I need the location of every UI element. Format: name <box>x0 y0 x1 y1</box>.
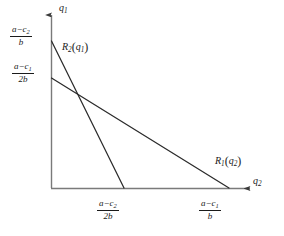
curve-label-r2-close-paren: ) <box>84 40 88 54</box>
curve-label-r2: R2(q1) <box>62 41 88 54</box>
fraction: a−c2 b <box>10 24 32 49</box>
numerator-a: a <box>14 61 19 71</box>
fraction-numerator: a−c1 <box>199 198 221 211</box>
y-tick-label-a-minus-c2-over-b: a−c2 b <box>10 24 32 49</box>
fraction: a−c2 2b <box>97 198 119 223</box>
fraction: a−c1 b <box>199 198 221 223</box>
numerator-c-subscript: 2 <box>27 28 30 35</box>
plot-canvas <box>0 0 284 236</box>
y-axis-variable-subscript: 1 <box>64 7 68 15</box>
numerator-c-subscript: 1 <box>216 202 219 209</box>
curve-label-r1-close-paren: ) <box>237 154 241 168</box>
fraction-numerator: a−c1 <box>12 61 34 74</box>
y-tick-label-a-minus-c1-over-2b: a−c1 2b <box>12 61 34 86</box>
fraction-denominator: b <box>199 211 221 223</box>
x-axis-variable-label: q2 <box>253 176 262 188</box>
curve-label-r1: R1(q2) <box>215 155 241 168</box>
reaction-curve-r1 <box>52 78 230 188</box>
fraction-denominator: 2b <box>12 74 34 86</box>
cournot-reaction-functions-figure: q1 q2 a−c2 b a−c1 2b a−c2 2b a−c1 b R2(q… <box>0 0 284 236</box>
numerator-c-subscript: 2 <box>114 202 117 209</box>
numerator-c-subscript: 1 <box>29 65 32 72</box>
numerator-a: a <box>12 24 17 34</box>
numerator-a: a <box>201 198 206 208</box>
x-axis-variable-subscript: 2 <box>258 180 262 188</box>
y-axis-variable-label: q1 <box>59 3 68 15</box>
fraction: a−c1 2b <box>12 61 34 86</box>
reaction-curve-r2 <box>52 41 125 188</box>
fraction-numerator: a−c2 <box>97 198 119 211</box>
fraction-numerator: a−c2 <box>10 24 32 37</box>
numerator-a: a <box>99 198 104 208</box>
fraction-denominator: b <box>10 37 32 49</box>
x-tick-label-a-minus-c1-over-b: a−c1 b <box>199 198 221 223</box>
fraction-denominator: 2b <box>97 211 119 223</box>
x-tick-label-a-minus-c2-over-2b: a−c2 2b <box>97 198 119 223</box>
